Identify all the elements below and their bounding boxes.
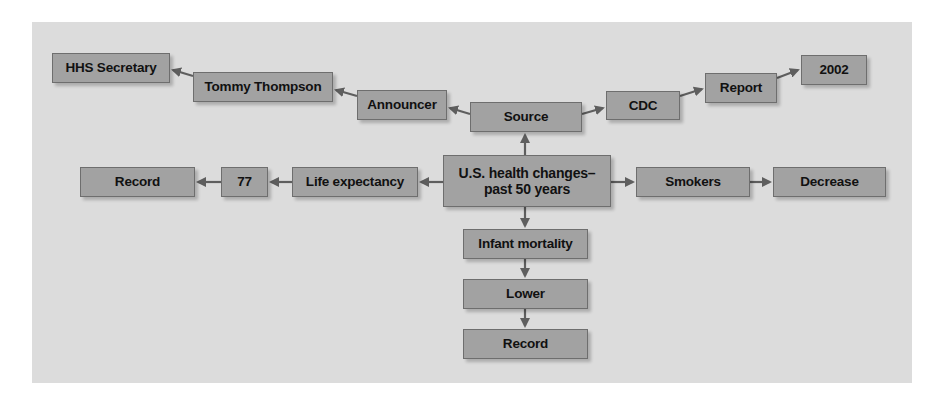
node-77: 77 [221, 167, 268, 197]
node-lower: Lower [463, 279, 588, 309]
node-infant-mortality: Infant mortality [463, 229, 588, 259]
node-report: Report [705, 73, 777, 103]
node-center-topic: U.S. health changes– past 50 years [443, 155, 611, 207]
node-record-left: Record [80, 167, 195, 197]
node-hhs-secretary: HHS Secretary [52, 53, 170, 83]
node-smokers: Smokers [636, 167, 750, 197]
node-decrease: Decrease [773, 167, 886, 197]
center-topic-line1: U.S. health changes– [459, 165, 596, 181]
node-tommy-thompson: Tommy Thompson [193, 72, 333, 102]
node-cdc: CDC [606, 91, 680, 120]
node-announcer: Announcer [357, 90, 447, 120]
node-2002: 2002 [801, 55, 867, 85]
node-record-bottom: Record [463, 329, 588, 359]
center-topic-line2: past 50 years [484, 181, 570, 197]
node-life-expectancy: Life expectancy [292, 167, 418, 197]
node-source: Source [470, 102, 582, 132]
